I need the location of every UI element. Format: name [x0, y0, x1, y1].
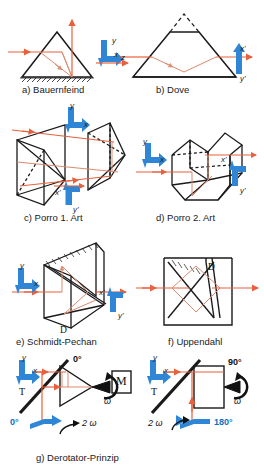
bauernfeind-ray-path [8, 20, 72, 77]
panel-d-caption: d) Porro 2. Art [156, 212, 215, 223]
panel-g-left-label-x: x [33, 366, 37, 375]
dove-prism-outline [133, 32, 236, 77]
panel-c-orientation-marker-out [63, 181, 88, 205]
panel-a-label-y: y [112, 36, 116, 45]
panel-a-label-x: x [114, 50, 118, 59]
panel-g-right-rotation: 2 ω [148, 418, 163, 428]
panel-c-label-x: x [84, 120, 88, 129]
panel-b-caption: b) Dove [156, 84, 189, 95]
panel-g-left-angle-top: 0° [73, 354, 82, 364]
panel-g-right-label-T: T [151, 386, 157, 397]
panel-e-part-label-D: D [60, 325, 67, 335]
panel-g-left-angle-bottom: 0° [10, 417, 19, 427]
figure-canvas [0, 0, 264, 474]
schmidt-pechan-hatching [46, 243, 98, 266]
panel-e-label-x: x [34, 279, 38, 288]
derotator-left-ray-path [32, 372, 92, 424]
panel-g-caption: g) Derotator-Prinzip [36, 452, 119, 463]
panel-g-left-label-M: M [116, 374, 127, 389]
panel-e-orientation-marker-out [107, 287, 123, 312]
panel-g-right-label-x: x [164, 366, 168, 375]
panel-g-right-image-marker [176, 415, 210, 429]
panel-g-left-label-y: y [22, 353, 26, 362]
panel-c-label-y: y [70, 101, 74, 110]
panel-g-left-image-marker [30, 415, 62, 429]
panel-g-right-angle-bottom: 180° [214, 417, 233, 427]
panel-b-label-x-out: x' [240, 44, 246, 53]
schmidt-pechan-ray-path [12, 266, 126, 314]
porro1-right-prism [88, 123, 125, 190]
panel-g-right-angle-top: 90° [228, 357, 242, 367]
derotator-right-shaft [224, 381, 240, 393]
derotator-left-shaft [92, 381, 110, 393]
bauernfeind-prism-outline [22, 32, 92, 77]
uppendahl-ray-path [136, 266, 258, 312]
panel-e-label-y: y [20, 261, 24, 270]
panel-d-porro2 [136, 133, 256, 200]
panel-d-label-x: x [160, 155, 164, 164]
panel-g-right-omega: ω [234, 396, 241, 406]
panel-d-orientation-marker-out [229, 160, 246, 186]
panel-d-label-y: y [143, 137, 147, 146]
panel-g-left-omega: ω [104, 396, 111, 406]
panel-e-schmidt-pechan [12, 243, 126, 328]
panel-b-dove [120, 14, 252, 77]
panel-c-porro1 [12, 107, 125, 205]
panel-g-right-label-y: y [153, 353, 157, 362]
panel-c-caption: c) Porro 1. Art [24, 212, 83, 223]
panel-a-bauernfeind [8, 20, 128, 82]
panel-a-caption: a) Bauernfeind [22, 84, 84, 95]
dove-apex-dashed [170, 14, 199, 32]
panel-a-label-z: z [121, 53, 125, 62]
panel-f-part-label-D: D [208, 262, 215, 272]
panel-d-label-y-out: y' [240, 186, 246, 195]
panel-g-left-label-T: T [19, 386, 25, 397]
panel-b-label-y-out: y' [240, 74, 246, 83]
panel-e-label-x-out: x' [99, 288, 105, 297]
panel-f-caption: f) Uppendahl [168, 336, 222, 347]
derotator-right-mirror-T [152, 360, 200, 413]
panel-e-label-y-out: y' [118, 311, 124, 320]
panel-d-label-x-out: x' [221, 155, 227, 164]
bauernfeind-hatching [20, 78, 94, 82]
schmidt-pechan-body [44, 243, 106, 328]
prism-types-figure: y x z a) Bauernfeind x' y' b) Dove y x x… [0, 0, 264, 474]
panel-g-left-rotation: 2 ω [82, 418, 97, 428]
panel-f-uppendahl [136, 258, 258, 325]
panel-c-label-x-out: x' [55, 188, 61, 197]
panel-e-caption: e) Schmidt-Pechan [16, 336, 97, 347]
